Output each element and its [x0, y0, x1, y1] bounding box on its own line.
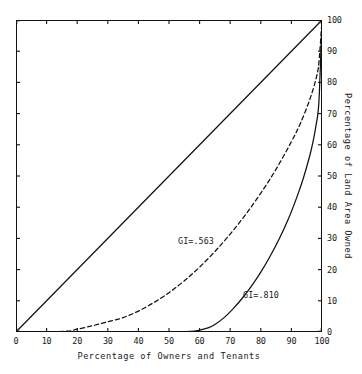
x-tick-label: 0: [14, 336, 19, 346]
y-tick-label: 80: [327, 77, 337, 87]
y-tick-label: 50: [327, 171, 337, 181]
y-tick-label: 40: [327, 202, 337, 212]
x-tick-label: 80: [256, 336, 266, 346]
x-tick-label: 40: [133, 336, 143, 346]
y-tick-label: 70: [327, 109, 337, 119]
x-tick-label: 70: [225, 336, 235, 346]
x-tick-label: 50: [164, 336, 174, 346]
y-tick-label: 0: [327, 327, 332, 337]
x-tick-label: 90: [286, 336, 296, 346]
y-tick-label: 10: [327, 296, 337, 306]
x-axis-title: Percentage of Owners and Tenants: [16, 351, 322, 361]
y-tick-label: 100: [327, 15, 342, 25]
x-tick-label: 10: [42, 336, 52, 346]
data-curves: [16, 20, 322, 332]
x-tick-label: 30: [103, 336, 113, 346]
y-tick-label: 20: [327, 265, 337, 275]
x-tick-label: 20: [72, 336, 82, 346]
lorenz-curve-chart: 0102030405060708090100 01020304050607080…: [0, 0, 362, 374]
x-tick-label: 100: [315, 336, 330, 346]
y-tick-label: 90: [327, 46, 337, 56]
annotation-gi-810: GI=.810: [243, 290, 279, 300]
curve-line-of-equality: [16, 20, 322, 332]
annotation-gi-563: GI=.563: [178, 236, 214, 246]
plot-area: [16, 20, 322, 332]
y-tick-label: 30: [327, 233, 337, 243]
y-tick-label: 60: [327, 140, 337, 150]
x-tick-label: 60: [195, 336, 205, 346]
y-axis-title: Percentage of Land Area Owned: [341, 20, 355, 332]
